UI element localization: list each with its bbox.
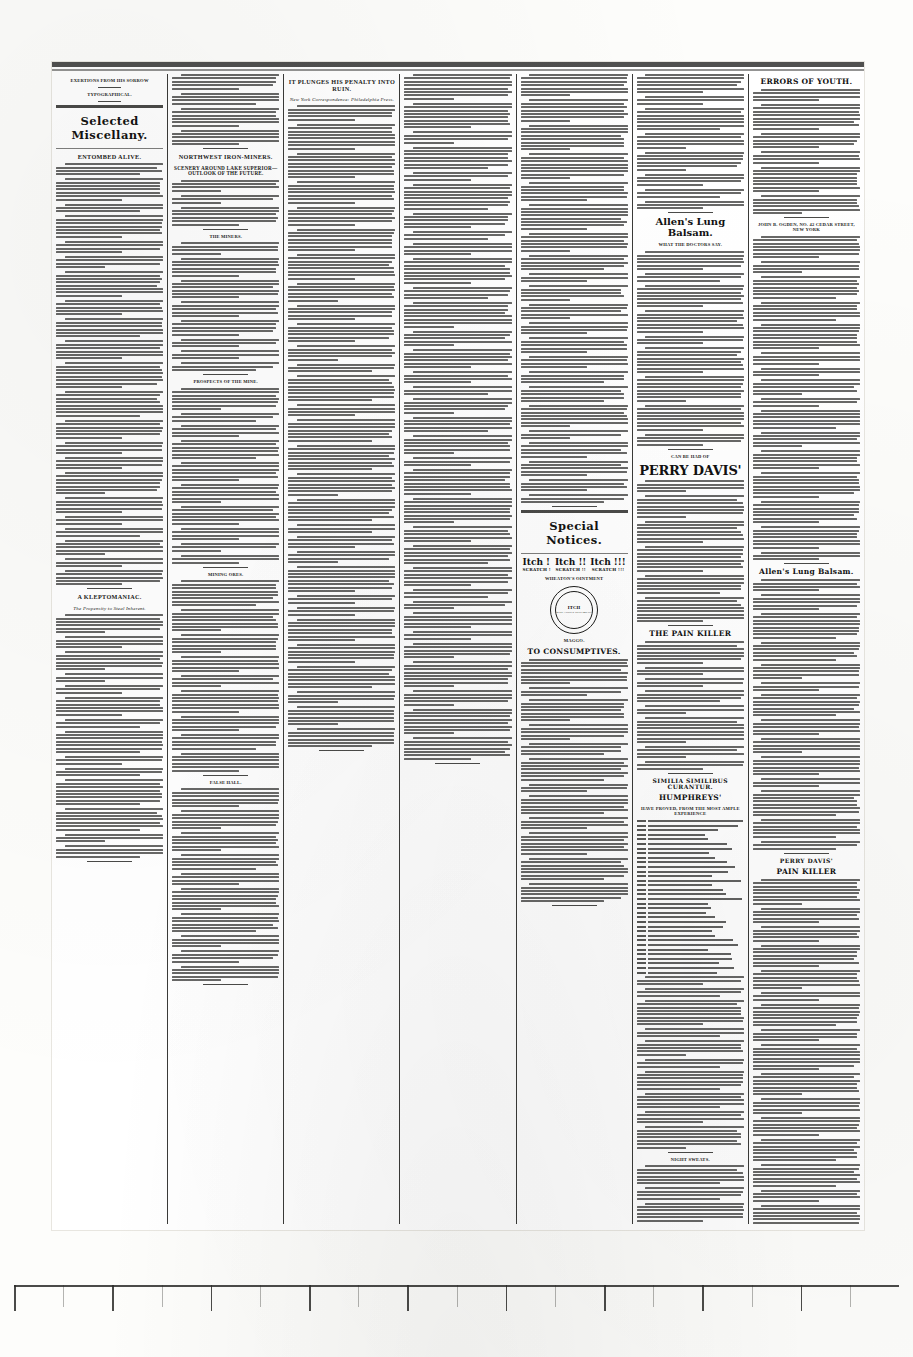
text-line bbox=[288, 191, 395, 193]
paragraph bbox=[404, 74, 511, 100]
text-line bbox=[753, 1102, 860, 1104]
text-line bbox=[288, 134, 395, 136]
text-line bbox=[413, 631, 512, 633]
text-line bbox=[56, 704, 160, 706]
text-line bbox=[753, 804, 857, 806]
text-line bbox=[172, 140, 279, 142]
text-line bbox=[56, 475, 163, 477]
text-line bbox=[172, 626, 278, 628]
text-line bbox=[753, 405, 819, 407]
text-line bbox=[181, 873, 280, 875]
paragraph bbox=[521, 494, 628, 503]
text-line bbox=[56, 501, 162, 503]
paragraph bbox=[56, 362, 163, 388]
text-line bbox=[404, 315, 511, 317]
text-line bbox=[172, 587, 276, 589]
text-line bbox=[172, 143, 238, 145]
ruler-tick bbox=[555, 1285, 556, 1307]
text-line bbox=[172, 498, 279, 500]
text-line bbox=[753, 107, 860, 109]
text-line bbox=[753, 327, 860, 329]
text-line bbox=[56, 236, 122, 238]
text-line bbox=[404, 135, 511, 137]
text-line bbox=[404, 700, 508, 702]
text-line bbox=[521, 753, 605, 755]
text-line bbox=[181, 528, 280, 530]
text-line bbox=[637, 1099, 744, 1101]
text-line bbox=[404, 634, 511, 636]
text-line bbox=[637, 939, 646, 941]
text-line bbox=[288, 239, 392, 241]
text-line bbox=[181, 413, 280, 415]
text-line bbox=[529, 285, 628, 287]
text-line bbox=[761, 398, 860, 400]
paragraph bbox=[56, 300, 163, 316]
paragraph bbox=[753, 819, 860, 838]
paragraph bbox=[172, 440, 279, 459]
text-line bbox=[56, 803, 140, 805]
paragraph bbox=[172, 413, 279, 422]
text-line bbox=[172, 186, 279, 188]
paragraph bbox=[637, 717, 744, 743]
text-line bbox=[56, 618, 160, 620]
text-line bbox=[288, 462, 392, 464]
text-line bbox=[65, 420, 164, 422]
text-line bbox=[288, 242, 392, 244]
text-line bbox=[172, 961, 238, 963]
text-line bbox=[753, 1222, 859, 1224]
text-line bbox=[645, 575, 744, 577]
text-line bbox=[521, 262, 628, 264]
text-line bbox=[637, 1035, 721, 1037]
text-line bbox=[288, 367, 394, 369]
text-line bbox=[637, 709, 744, 711]
text-line bbox=[637, 258, 743, 260]
text-line bbox=[56, 394, 160, 396]
text-line bbox=[753, 648, 859, 650]
text-line bbox=[56, 479, 162, 481]
text-line bbox=[761, 552, 860, 554]
text-line bbox=[56, 519, 163, 521]
text-line bbox=[521, 289, 622, 291]
text-line bbox=[753, 1124, 859, 1126]
text-line bbox=[645, 74, 744, 76]
text-line bbox=[521, 299, 570, 301]
paragraph bbox=[404, 567, 511, 586]
paragraph bbox=[637, 690, 744, 702]
paragraph bbox=[637, 336, 744, 345]
list-item bbox=[648, 848, 733, 850]
text-line bbox=[413, 589, 512, 591]
text-line bbox=[753, 479, 859, 481]
itch-word: Itch !!!SCRATCH !!! bbox=[590, 557, 625, 572]
text-line bbox=[753, 533, 857, 535]
text-line bbox=[181, 634, 280, 636]
text-line bbox=[753, 1076, 854, 1078]
text-line bbox=[181, 207, 280, 209]
text-line bbox=[288, 423, 395, 425]
text-line bbox=[413, 643, 512, 645]
text-line bbox=[288, 148, 354, 150]
paragraph bbox=[56, 756, 163, 765]
paragraph bbox=[637, 761, 744, 770]
text-line bbox=[56, 266, 105, 268]
text-line bbox=[753, 704, 859, 706]
text-line bbox=[56, 329, 163, 331]
text-line bbox=[637, 196, 721, 198]
advertisement-heading: Allen's Lung Balsam. bbox=[753, 568, 860, 576]
text-line bbox=[529, 233, 628, 235]
text-line bbox=[297, 323, 396, 325]
text-line bbox=[172, 763, 279, 765]
text-line bbox=[56, 464, 162, 466]
paragraph bbox=[172, 873, 279, 885]
text-line bbox=[753, 521, 819, 523]
text-line bbox=[404, 138, 508, 140]
text-line bbox=[637, 866, 646, 868]
text-line bbox=[753, 951, 857, 953]
text-line bbox=[404, 584, 470, 586]
text-line bbox=[753, 987, 802, 989]
text-line bbox=[521, 900, 605, 902]
text-line bbox=[404, 607, 453, 609]
text-line bbox=[288, 455, 389, 457]
paragraph bbox=[637, 152, 744, 171]
section-heading: Can be had of bbox=[637, 455, 744, 460]
text-line bbox=[645, 405, 744, 407]
